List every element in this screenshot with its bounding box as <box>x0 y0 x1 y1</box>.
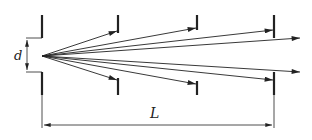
distance-label: L <box>149 105 159 121</box>
ray-arrow <box>42 38 300 56</box>
slit-width-dimension <box>26 38 42 72</box>
slit-width-label: d <box>14 48 22 63</box>
ray-arrow <box>42 30 273 56</box>
rays <box>42 28 300 84</box>
ray-arrow <box>42 31 117 56</box>
diagram-canvas: d L <box>0 0 312 140</box>
